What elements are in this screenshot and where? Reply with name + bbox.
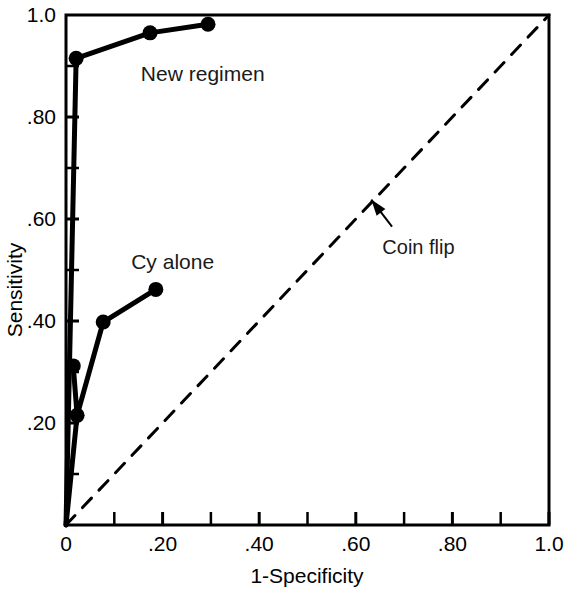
annotation-label-new-regimen: New regimen — [141, 62, 265, 85]
data-point-cy-alone-2 — [96, 315, 111, 330]
data-point-cy-alone-0 — [66, 358, 81, 373]
x-axis-title: 1-Specificity — [250, 564, 364, 587]
data-point-cy-alone-1 — [70, 408, 85, 423]
x-tick-label-3: .60 — [341, 532, 370, 555]
x-tick-label-4: .80 — [438, 532, 467, 555]
series-line-cy-alone — [66, 289, 156, 525]
data-point-cy-alone-3 — [148, 282, 163, 297]
x-tick-label-2: .40 — [245, 532, 274, 555]
y-tick-label-2: .60 — [27, 207, 56, 230]
y-axis-title: Sensitivity — [3, 242, 26, 337]
x-tick-label-0: 0 — [60, 532, 72, 555]
x-tick-label-1: .20 — [148, 532, 177, 555]
y-axis-tick-labels: 1.0.80.60.40.20 — [27, 3, 56, 434]
roc-chart-figure: 0.20.40.60.801.0 1.0.80.60.40.20 New reg… — [0, 0, 576, 607]
data-point-new-regimen-1 — [143, 25, 158, 40]
x-axis-minor-ticks — [114, 512, 500, 525]
roc-chart-svg: 0.20.40.60.801.0 1.0.80.60.40.20 New reg… — [0, 0, 576, 607]
annotation-label-cy-alone: Cy alone — [131, 250, 214, 273]
x-tick-label-5: 1.0 — [534, 532, 563, 555]
annotation-label-coin-flip: Coin flip — [382, 236, 454, 258]
y-tick-label-4: .20 — [27, 411, 56, 434]
y-tick-label-3: .40 — [27, 309, 56, 332]
y-tick-label-0: 1.0 — [27, 3, 56, 26]
data-point-new-regimen-0 — [69, 51, 84, 66]
annotation-arrow-head-2 — [371, 200, 385, 216]
y-tick-label-1: .80 — [27, 105, 56, 128]
x-axis-tick-labels: 0.20.40.60.801.0 — [60, 532, 563, 555]
data-point-new-regimen-2 — [201, 17, 216, 32]
